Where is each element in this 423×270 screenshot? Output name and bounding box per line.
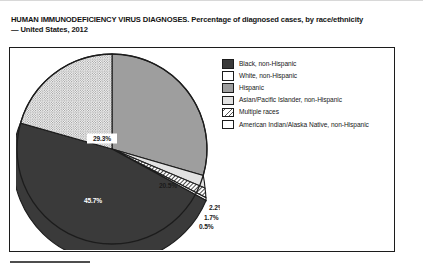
pie-chart: 29.3% 20.5% 45.7% 2.2% 1.7% 0.5% [16, 50, 220, 250]
legend-item-asian-pacific-islander[interactable]: Asian/Pacific Islander, non-Hispanic [222, 94, 390, 106]
legend-item-white-non-hispanic[interactable]: White, non-Hispanic [222, 70, 390, 82]
pie-label-black-non-hispanic: 45.7% [84, 197, 102, 204]
legend-label-white-non-hispanic: White, non-Hispanic [239, 72, 297, 80]
figure-frame: 29.3% 20.5% 45.7% 2.2% 1.7% 0.5% Black, … [9, 47, 395, 252]
legend-swatch-hispanic [222, 83, 234, 93]
legend-item-hispanic[interactable]: Hispanic [222, 82, 390, 94]
legend-swatch-white-non-hispanic [222, 71, 234, 81]
pie-label-american-indian-alaska-native: 0.5% [199, 223, 214, 230]
legend-label-hispanic: Hispanic [239, 84, 264, 92]
legend-item-black-non-hispanic[interactable]: Black, non-Hispanic [222, 58, 390, 70]
legend-swatch-black-non-hispanic [222, 59, 234, 69]
legend: Black, non-Hispanic White, non-Hispanic … [222, 58, 390, 131]
figure-title: HUMAN IMMUNODEFICIENCY VIRUS DIAGNOSES. … [11, 15, 411, 36]
legend-label-asian-pacific-islander: Asian/Pacific Islander, non-Hispanic [239, 96, 342, 104]
legend-label-multiple-races: Multiple races [239, 108, 279, 116]
legend-swatch-american-indian-alaska-native [222, 120, 234, 130]
pie-label-multiple-races: 1.7% [204, 214, 219, 221]
legend-label-american-indian-alaska-native: American Indian/Alaska Native, non-Hispa… [239, 121, 369, 129]
legend-item-american-indian-alaska-native[interactable]: American Indian/Alaska Native, non-Hispa… [222, 118, 390, 130]
pie-chart-svg: 29.3% 20.5% 45.7% 2.2% 1.7% 0.5% [16, 50, 220, 250]
legend-label-black-non-hispanic: Black, non-Hispanic [239, 60, 296, 68]
pie-label-white-non-hispanic: 29.3% [93, 135, 111, 142]
pie-label-asian-pacific-islander: 2.2% [209, 204, 220, 211]
legend-swatch-asian-pacific-islander [222, 96, 234, 106]
page-top-edge [0, 0, 423, 1]
legend-swatch-multiple-races [222, 108, 234, 118]
pie-label-hispanic: 20.5% [159, 182, 177, 189]
figure-title-line-2: — United States, 2012 [11, 25, 411, 35]
legend-item-multiple-races[interactable]: Multiple races [222, 106, 390, 118]
figure-title-line-1: HUMAN IMMUNODEFICIENCY VIRUS DIAGNOSES. … [11, 15, 411, 25]
footnote-separator-rule [10, 261, 90, 263]
